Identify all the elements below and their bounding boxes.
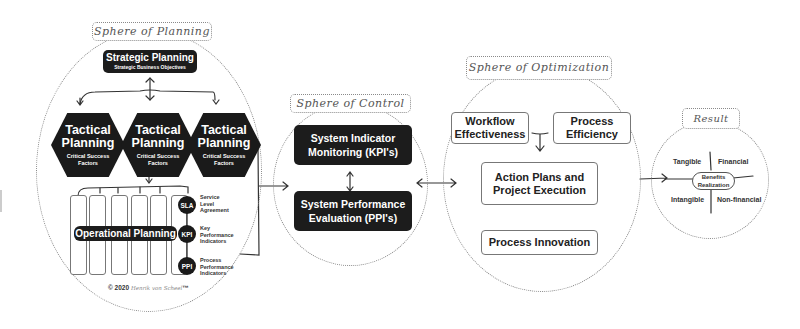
operational-planning-box: Operational Planning <box>74 226 177 241</box>
action-plans-box: Action Plans andProject Execution <box>481 162 598 205</box>
tactical-subtitle: Critical Success <box>203 153 246 159</box>
quadrant-financial: Financial <box>718 158 748 165</box>
ppi-label: ProcessPerformanceIndicators <box>200 257 234 277</box>
strategic-planning-subtitle: Strategic Business Objectives <box>103 64 197 71</box>
sla-badge: SLA <box>178 196 196 214</box>
tactical-subtitle: Factors <box>214 160 234 166</box>
ppi-badge: PPI <box>178 257 196 275</box>
tactical-title: Planning <box>198 136 251 150</box>
tactical-title: Tactical <box>135 123 181 137</box>
workflow-effectiveness-box: WorkflowEffectiveness <box>451 112 529 144</box>
tactical-subtitle: Factors <box>148 160 168 166</box>
sphere-planning-label: Sphere of Planning <box>92 22 212 41</box>
kpi-label: KeyPerformanceIndicators <box>200 225 234 245</box>
tactical-title: Tactical <box>65 123 111 137</box>
process-innovation-box: Process Innovation <box>481 230 598 255</box>
sphere-result-label: Result <box>682 108 740 129</box>
quadrant-non-financial: Non-financial <box>717 196 761 203</box>
sla-label: ServiceLevelAgreement <box>200 194 229 214</box>
tactical-subtitle: Critical Success <box>67 153 110 159</box>
quadrant-intangible: Intangible <box>671 196 704 203</box>
copyright: © 2020 Henrik von Scheel™ <box>108 284 189 291</box>
sphere-control-label: Sphere of Control <box>290 94 411 113</box>
strategic-planning-box: Strategic Planning Strategic Business Ob… <box>103 50 197 73</box>
system-performance-evaluation-box: System PerformanceEvaluation (PPI's) <box>294 191 412 231</box>
strategic-planning-title: Strategic Planning <box>103 52 197 64</box>
tactical-title: Planning <box>132 136 185 150</box>
sphere-optimization-label: Sphere of Optimization <box>466 56 612 80</box>
tactical-title: Tactical <box>201 123 247 137</box>
tactical-title: Planning <box>62 136 115 150</box>
edge-mark <box>0 190 2 212</box>
benefits-realization-bubble: BenefitsRealization <box>692 172 735 190</box>
process-efficiency-box: ProcessEfficiency <box>553 112 631 144</box>
quadrant-tangible: Tangible <box>673 158 701 165</box>
tactical-subtitle: Factors <box>78 160 98 166</box>
kpi-badge: KPI <box>178 225 196 243</box>
tactical-subtitle: Critical Success <box>137 153 180 159</box>
system-indicator-monitoring-box: System IndicatorMonitoring (KPI's) <box>294 125 412 165</box>
